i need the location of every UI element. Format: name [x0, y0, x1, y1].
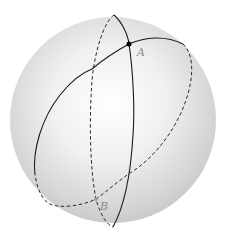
- sphere: [10, 17, 216, 223]
- point-b-label: B: [100, 201, 108, 212]
- point-a-marker: [127, 42, 132, 47]
- point-a-label: A: [137, 47, 145, 58]
- point-b-marker: [94, 197, 98, 201]
- sphere-diagram: [0, 0, 229, 241]
